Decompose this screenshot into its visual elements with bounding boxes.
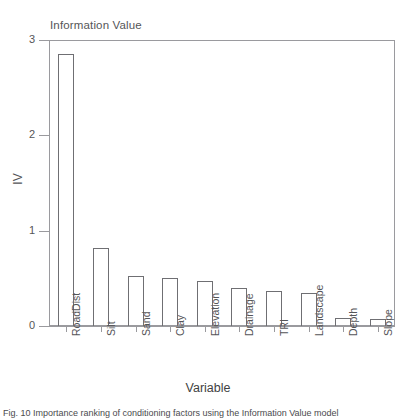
y-tick-label-2: 2 — [29, 128, 39, 140]
x-tick-label-drainage: Drainage — [243, 293, 255, 336]
x-tick-drainage — [239, 326, 240, 332]
x-tick-label-depth: Depth — [347, 308, 359, 336]
figure-caption: Fig. 10 Importance ranking of conditioni… — [3, 408, 413, 419]
x-tick-label-landscape: Landscape — [313, 285, 325, 336]
y-tick-3: 3 — [39, 40, 49, 41]
bar-roaddist — [58, 54, 74, 326]
x-axis-title: Variable — [0, 381, 416, 395]
x-tick-label-slope: Slope — [382, 309, 394, 336]
x-tick-elevation — [205, 326, 206, 332]
y-tick-1: 1 — [39, 231, 49, 232]
y-tick-0: 0 — [39, 326, 49, 327]
x-tick-label-roaddist: RoadDist — [70, 293, 82, 336]
y-axis-title: IV — [11, 159, 25, 199]
x-tick-label-elevation: Elevation — [209, 293, 221, 336]
x-tick-sand — [136, 326, 137, 332]
x-tick-clay — [170, 326, 171, 332]
x-tick-depth — [343, 326, 344, 332]
x-tick-label-tri: TRI — [278, 319, 290, 336]
x-tick-label-clay: Clay — [174, 315, 186, 336]
y-tick-2: 2 — [39, 135, 49, 136]
x-tick-landscape — [309, 326, 310, 332]
x-tick-silt — [101, 326, 102, 332]
y-tick-label-1: 1 — [29, 224, 39, 236]
x-tick-label-sand: Sand — [140, 311, 152, 336]
figure-container: Information Value IV 3 2 1 0 RoadDistSil… — [0, 0, 416, 419]
x-tick-slope — [378, 326, 379, 332]
x-tick-tri — [274, 326, 275, 332]
x-tick-label-silt: Silt — [105, 321, 117, 336]
bar-silt — [93, 248, 109, 326]
y-tick-label-3: 3 — [29, 33, 39, 45]
x-tick-roaddist — [66, 326, 67, 332]
y-tick-label-0: 0 — [29, 319, 39, 331]
chart-title: Information Value — [50, 19, 142, 31]
